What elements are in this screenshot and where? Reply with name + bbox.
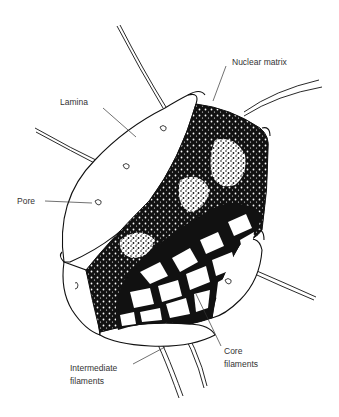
label-pore: Pore [17,195,35,207]
label-core-filaments: Core filaments [224,345,258,370]
label-core-filaments-line1: Core [224,345,258,358]
label-nuclear-matrix: Nuclear matrix [232,56,287,68]
label-intermediate-filaments: Intermediate filaments [70,362,117,387]
label-intermediate-filaments-line2: filaments [70,375,117,388]
nucleus-diagram [0,0,339,417]
label-intermediate-filaments-line1: Intermediate [70,362,117,375]
label-core-filaments-line2: filaments [224,358,258,371]
label-lamina: Lamina [60,96,88,108]
